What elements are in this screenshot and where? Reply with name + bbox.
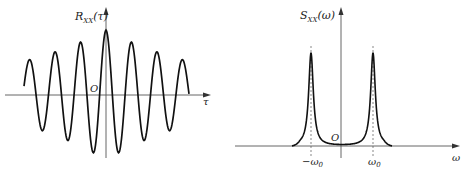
s-axis-label: SXX(ω)	[300, 9, 335, 24]
figure-canvas: RXX(τ) O τ SXX(ω) O −ω0 ω0 ω	[0, 0, 461, 174]
r-axis-label: RXX(τ)	[74, 10, 108, 25]
autocorrelation-chart: RXX(τ) O τ	[5, 7, 211, 158]
s-axis-arrow-icon	[339, 7, 344, 15]
omega-axis-arrow-icon	[452, 144, 460, 149]
omega-axis-label: ω	[452, 152, 460, 163]
origin-label: O	[90, 83, 98, 94]
origin-label: O	[331, 132, 339, 143]
power-spectrum-chart: SXX(ω) O −ω0 ω0 ω	[235, 7, 460, 169]
spectrum-curve	[292, 53, 392, 146]
autocorrelation-curve	[24, 30, 189, 153]
tau-axis-label: τ	[203, 96, 209, 107]
neg-omega0-tick-label: −ω0	[302, 156, 324, 169]
pos-omega0-tick-label: ω0	[368, 156, 381, 169]
